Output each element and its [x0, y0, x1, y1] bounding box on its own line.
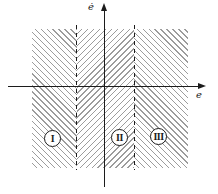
switching-line-right — [134, 25, 135, 170]
switching-line-left — [76, 25, 77, 170]
region-badge-3: III — [150, 128, 167, 145]
region-numeral-3: III — [153, 131, 163, 142]
hatch-region-right — [134, 29, 188, 168]
up-arrowhead-icon — [101, 3, 107, 11]
region-badge-2: II — [111, 129, 128, 146]
hatch-region-middle — [77, 29, 134, 168]
region-numeral-2: II — [116, 132, 123, 143]
horizontal-axis-label: e — [196, 90, 202, 100]
phase-plane-figure: ė e I II III — [0, 0, 218, 194]
region-badge-1: I — [44, 130, 61, 147]
region-numeral-1: I — [51, 133, 54, 144]
horizontal-axis — [8, 86, 200, 87]
vertical-axis — [104, 9, 105, 187]
vertical-axis-label: ė — [88, 2, 94, 12]
hatch-region-left — [32, 29, 77, 168]
